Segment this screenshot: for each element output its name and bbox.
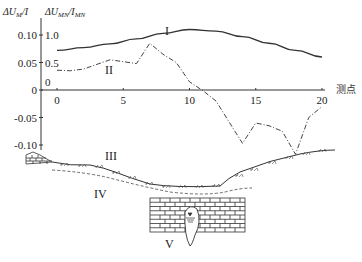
resistivity-profile-diagram: 0.100.050-0.05-0.10 05101520 ΔUM/I ΔUMN/… — [0, 0, 362, 262]
x-tick-label: 10 — [184, 94, 196, 106]
x-ticks: 05101520 — [54, 88, 328, 106]
x-tick-label: 5 — [121, 94, 127, 106]
ground-surface-line — [52, 150, 335, 187]
layer-IV-label: IV — [94, 187, 107, 201]
y-right-tick-label: 0.5 — [45, 57, 59, 69]
y-left-tick-label: 0.10 — [18, 29, 38, 41]
y-right-title: ΔUMN/IMN — [44, 6, 86, 19]
y-left-tick-label: -0.10 — [14, 139, 37, 151]
cave-V-label: V — [165, 237, 174, 251]
y-left-tick-label: 0.05 — [18, 57, 38, 69]
limestone-left-icon — [26, 152, 52, 164]
curve-I — [57, 30, 322, 58]
y-left-ticks: 0.100.050-0.05-0.10 — [14, 29, 43, 151]
y-right-tick-label: 1.0 — [45, 29, 59, 41]
curve-II-label: II — [105, 63, 113, 77]
y-right-tick-label: 0 — [45, 76, 51, 88]
layer-III-label: III — [105, 149, 117, 163]
cave-icon — [185, 207, 199, 246]
soil-hatch — [60, 149, 326, 188]
x-tick-label: 20 — [317, 94, 329, 106]
curve-I-label: I — [165, 24, 169, 38]
y-left-title: ΔUM/I — [2, 6, 29, 19]
x-tick-label: 0 — [54, 94, 60, 106]
y-right-ticks: 1.00.50 — [45, 29, 59, 88]
x-axis-title: 测点 — [336, 83, 356, 95]
y-left-tick-label: -0.05 — [14, 112, 37, 124]
y-left-tick-label: 0 — [32, 84, 38, 96]
x-tick-label: 15 — [250, 94, 262, 106]
